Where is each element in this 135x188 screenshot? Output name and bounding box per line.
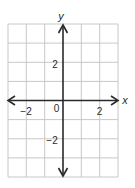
origin-label: 0 bbox=[54, 103, 60, 114]
x-tick-label-2: 2 bbox=[97, 106, 103, 117]
y-tick-label-2: 2 bbox=[52, 59, 58, 70]
x-tick-label-neg2: −2 bbox=[20, 106, 32, 117]
x-axis-label: x bbox=[121, 94, 128, 106]
coordinate-plane: y x 0 −2 2 2 −2 bbox=[0, 0, 135, 188]
y-axis-label: y bbox=[57, 10, 65, 22]
y-tick-label-neg2: −2 bbox=[46, 135, 58, 146]
